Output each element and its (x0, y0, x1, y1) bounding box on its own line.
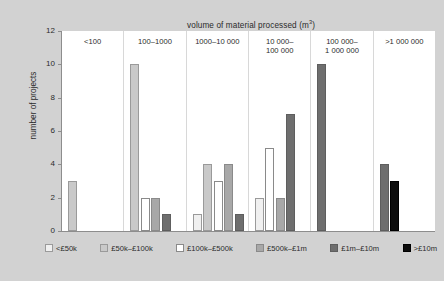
chart-title: volume of material processed (m3) (67, 19, 435, 30)
bar[interactable] (235, 214, 244, 231)
legend-swatch-icon (403, 244, 411, 252)
legend-swatch-icon (256, 244, 264, 252)
legend-item[interactable]: £500k–£1m (256, 244, 307, 253)
legend-item-label: £500k–£1m (267, 244, 307, 253)
legend-item-label: £50k–£100k (111, 244, 152, 253)
bar[interactable] (68, 181, 77, 231)
y-axis-tick-label: 8 (35, 94, 55, 102)
y-axis-tick-label: 2 (35, 194, 55, 202)
bar[interactable] (130, 64, 139, 231)
panel-bars (62, 31, 123, 231)
legend-item[interactable]: £50k–£100k (100, 244, 152, 253)
y-axis-tick-mark (58, 98, 61, 99)
legend-item[interactable]: £1m–£10m (330, 244, 379, 253)
bar[interactable] (276, 198, 285, 231)
legend-item-label: <£50k (56, 244, 77, 253)
chart-panel: 100 000– 1 000 000 (311, 31, 373, 231)
legend-swatch-icon (100, 244, 108, 252)
bar[interactable] (141, 198, 150, 231)
legend-item[interactable]: <£50k (45, 244, 77, 253)
bar[interactable] (224, 164, 233, 231)
y-axis-tick-mark (58, 231, 61, 232)
legend-item-label: £1m–£10m (341, 244, 379, 253)
bar[interactable] (265, 148, 274, 231)
panel-bars (124, 31, 185, 231)
y-axis-tick-label: 4 (35, 160, 55, 168)
bar[interactable] (214, 181, 223, 231)
chart-title-tail: ) (312, 21, 315, 30)
y-axis-label: number of projects (29, 36, 38, 176)
y-axis-tick-mark (58, 164, 61, 165)
legend-swatch-icon (330, 244, 338, 252)
legend-item[interactable]: £100k–£500k (176, 244, 233, 253)
legend-swatch-icon (45, 244, 53, 252)
y-axis-tick-label: 0 (35, 227, 55, 235)
y-axis-tick-label: 6 (35, 127, 55, 135)
bar[interactable] (380, 164, 389, 231)
chart-panel: >1 000 000 (374, 31, 435, 231)
chart-panel: 1000–10 000 (187, 31, 249, 231)
legend-item-label: >£10m (414, 244, 437, 253)
bar[interactable] (286, 114, 295, 231)
chart-title-text: volume of material processed (m (187, 21, 309, 30)
bar[interactable] (203, 164, 212, 231)
chart-legend: <£50k£50k–£100k£100k–£500k£500k–£1m£1m–£… (45, 241, 437, 255)
y-axis-tick-label: 10 (35, 60, 55, 68)
bar[interactable] (151, 198, 160, 231)
bar[interactable] (162, 214, 171, 231)
figure: volume of material processed (m3) number… (7, 5, 437, 257)
bar[interactable] (390, 181, 399, 231)
panel-bars (311, 31, 372, 231)
legend-item[interactable]: >£10m (403, 244, 437, 253)
y-axis-tick-label: 12 (35, 27, 55, 35)
bar[interactable] (317, 64, 326, 231)
y-axis-tick-mark (58, 198, 61, 199)
y-axis-tick-mark (58, 31, 61, 32)
legend-item-label: £100k–£500k (187, 244, 233, 253)
chart-panel: 10 000– 100 000 (249, 31, 311, 231)
panel-bars (374, 31, 435, 231)
plot-area: <100100–10001000–10 00010 000– 100 00010… (62, 31, 435, 231)
legend-swatch-icon (176, 244, 184, 252)
chart-panel: <100 (62, 31, 124, 231)
bar[interactable] (255, 198, 264, 231)
panel-bars (249, 31, 310, 231)
y-axis-tick-mark (58, 64, 61, 65)
x-axis-line (61, 231, 435, 232)
y-axis-tick-mark (58, 131, 61, 132)
panel-bars (187, 31, 248, 231)
bar[interactable] (193, 214, 202, 231)
chart-panel: 100–1000 (124, 31, 186, 231)
